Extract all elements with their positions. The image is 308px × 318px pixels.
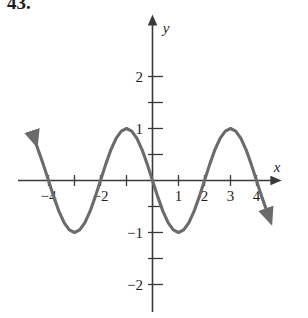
axes-group bbox=[18, 24, 272, 312]
x-tick-label-1: 1 bbox=[175, 188, 183, 204]
y-tick-label-neg2: −2 bbox=[127, 277, 143, 293]
sinusoid-graph-figure: −4 −2 1 2 3 4 2 1 −1 −2 x y bbox=[0, 0, 308, 318]
x-axis-label: x bbox=[273, 159, 281, 175]
y-tick-label-neg1: −1 bbox=[127, 225, 143, 241]
y-axis-label: y bbox=[161, 20, 170, 36]
x-tick-label-3: 3 bbox=[227, 188, 235, 204]
y-tick-label-2: 2 bbox=[136, 69, 144, 85]
figure-page: 43. bbox=[0, 0, 308, 318]
y-tick-label-1: 1 bbox=[136, 121, 144, 137]
